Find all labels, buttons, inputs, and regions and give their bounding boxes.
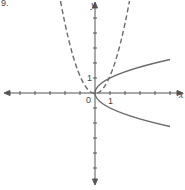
- y-axis-label: y: [90, 0, 96, 10]
- problem-number: 9.: [1, 0, 9, 8]
- graph-canvas: 9. 0 1 1 x y: [0, 0, 185, 190]
- x-axis-label: x: [178, 89, 184, 100]
- y-tick-label: 1: [87, 73, 92, 83]
- origin-label: 0: [86, 95, 91, 105]
- x-tick-label: 1: [108, 96, 113, 106]
